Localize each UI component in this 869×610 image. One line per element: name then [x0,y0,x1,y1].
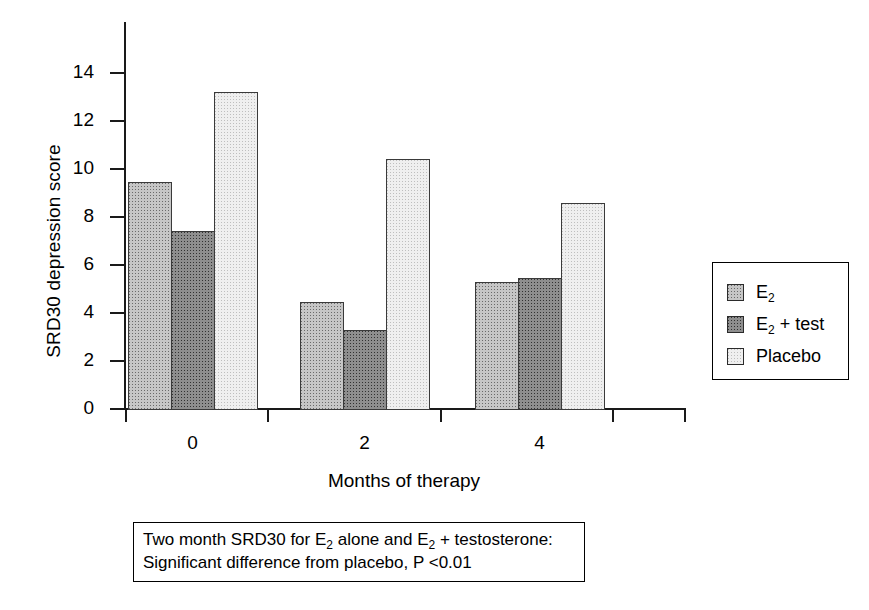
y-tick-0 [110,408,124,410]
y-tick-label-10: 10 [34,157,94,179]
bar-placebo-month-2 [386,159,430,410]
x-tick-label-2: 2 [335,432,395,454]
caption-line1-sub-1: 2 [326,538,333,552]
bar-placebo-month-0 [214,92,258,410]
y-tick-8 [110,216,124,218]
legend-label-placebo: Placebo [756,346,821,367]
caption-line-1: Two month SRD30 for E2 alone and E2 + te… [143,529,575,552]
y-axis-line [124,22,126,410]
y-tick-14 [110,72,124,74]
legend-label-e2-test: E2 + test [756,314,824,335]
y-tick-4 [110,312,124,314]
y-tick-label-8: 8 [34,205,94,227]
y-tick-2 [110,360,124,362]
legend-item-e2-test: E2 + test [727,313,824,335]
x-tick-label-0: 0 [163,432,223,454]
y-tick-label-2: 2 [34,349,94,371]
y-tick-label-4: 4 [34,301,94,323]
caption-line-2: Significant difference from placebo, P <… [143,552,575,574]
bar-e2-test-month-0 [171,231,215,410]
bar-e2-month-2 [300,302,344,410]
x-tick-label-4: 4 [510,432,570,454]
caption-line1-part-b: alone and E [333,530,428,549]
y-tick-label-12: 12 [34,109,94,131]
legend-item-e2: E2 [727,281,775,303]
caption-line1-part-a: Two month SRD30 for E [143,530,326,549]
y-tick-label-14: 14 [34,61,94,83]
y-tick-12 [110,120,124,122]
e2-swatch-icon [727,284,744,301]
x-tick-3 [612,408,614,422]
caption-box: Two month SRD30 for E2 alone and E2 + te… [133,522,585,582]
bar-e2-test-month-2 [343,330,387,410]
y-tick-10 [110,168,124,170]
y-tick-label-0: 0 [34,397,94,419]
e2-test-swatch-icon [727,316,744,333]
x-tick-2 [440,408,442,422]
caption-line1-part-c: + testosterone: [435,530,553,549]
bar-placebo-month-4 [561,203,605,410]
placebo-swatch-icon [727,348,744,365]
legend-item-placebo: Placebo [727,345,821,367]
bar-e2-test-month-4 [518,278,562,410]
x-tick-1 [267,408,269,422]
y-tick-6 [110,264,124,266]
legend: E2 E2 + test Placebo [712,262,849,380]
x-tick-4 [684,408,686,422]
y-tick-label-6: 6 [34,253,94,275]
bar-e2-month-0 [128,182,172,410]
x-axis-title: Months of therapy [124,470,684,492]
bar-e2-month-4 [475,282,519,410]
chart-figure: SRD30 depression score 02468101214 024 M… [0,0,869,610]
x-tick-0 [125,408,127,422]
caption-line1-sub-2: 2 [428,538,435,552]
legend-label-e2: E2 [756,282,775,303]
